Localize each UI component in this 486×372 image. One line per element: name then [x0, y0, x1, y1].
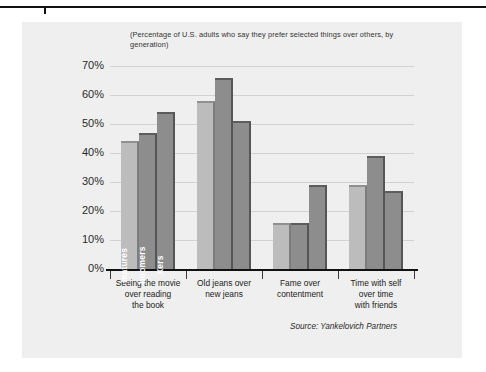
- category-label-line: with friends: [338, 300, 414, 311]
- y-axis-tick: 30%: [52, 182, 104, 183]
- document-rule-tick: [44, 6, 46, 14]
- y-axis-tick: 70%: [52, 66, 104, 67]
- category-label-line: Time with self: [338, 278, 414, 289]
- y-axis-tick: 40%: [52, 153, 104, 154]
- category-label-1: Seeing the movieover readingthe book: [110, 278, 186, 311]
- category-separator: [414, 271, 415, 279]
- category-label-line: Old jeans over: [186, 278, 262, 289]
- gridline: [110, 124, 414, 125]
- y-axis-tick-label: 30%: [58, 175, 104, 187]
- y-axis-tick-label: 10%: [58, 233, 104, 245]
- y-axis-tick: 50%: [52, 124, 104, 125]
- legend-label-matures: matures: [119, 248, 129, 282]
- y-axis-tick-label: 0%: [58, 262, 104, 274]
- y-axis-tick: 10%: [52, 240, 104, 241]
- y-axis-tick: 20%: [52, 211, 104, 212]
- source-note: Source: Yankelovich Partners: [290, 322, 397, 331]
- category-label-line: over time: [338, 289, 414, 300]
- bar-boomers-3: [291, 223, 309, 269]
- category-label-line: the book: [110, 300, 186, 311]
- bar-Xers-1: Xers: [157, 112, 175, 269]
- bar-boomers-1: boomers: [139, 133, 157, 269]
- y-axis-tick-label: 20%: [58, 204, 104, 216]
- y-axis-tick: 60%: [52, 95, 104, 96]
- y-axis-tick: 0%: [52, 269, 104, 270]
- gridline: [110, 66, 414, 67]
- bar-boomers-4: [367, 156, 385, 269]
- category-label-line: contentment: [262, 289, 338, 300]
- y-axis-tick-label: 60%: [58, 88, 104, 100]
- bar-matures-4: [349, 185, 367, 269]
- category-label-3: Fame overcontentment: [262, 278, 338, 300]
- chart-panel: (Percentage of U.S. adults who say they …: [22, 22, 462, 358]
- plot-area: 70%60%50%40%30%20%10%0% maturesboomersXe…: [22, 22, 462, 358]
- category-label-line: new jeans: [186, 289, 262, 300]
- category-label-2: Old jeans overnew jeans: [186, 278, 262, 300]
- bar-matures-3: [273, 223, 291, 269]
- bar-Xers-4: [385, 191, 403, 269]
- bar-Xers-3: [309, 185, 327, 269]
- y-axis-tick-label: 50%: [58, 117, 104, 129]
- document-top-rule: [0, 6, 486, 8]
- y-axis-tick-label: 40%: [58, 146, 104, 158]
- category-label-4: Time with selfover timewith friends: [338, 278, 414, 311]
- category-label-line: over reading: [110, 289, 186, 300]
- bar-boomers-2: [215, 78, 233, 269]
- category-label-line: Fame over: [262, 278, 338, 289]
- bar-matures-1: matures: [121, 141, 139, 269]
- y-axis-tick-label: 70%: [58, 59, 104, 71]
- bar-matures-2: [197, 101, 215, 269]
- bar-Xers-2: [233, 121, 251, 269]
- gridline: [110, 95, 414, 96]
